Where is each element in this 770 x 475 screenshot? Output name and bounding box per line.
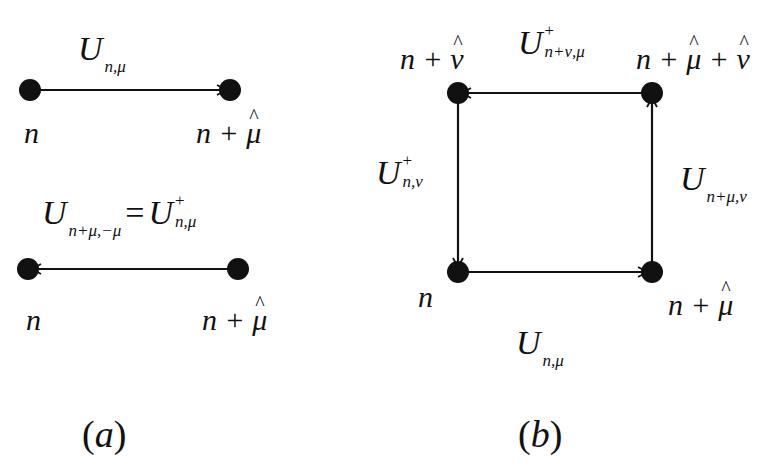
caption-letter: a bbox=[95, 413, 114, 455]
label-a-top-link: Un,μ bbox=[78, 32, 126, 75]
link-subscript: n+ν,μ bbox=[545, 43, 585, 60]
node-hat-nu: ν bbox=[450, 44, 463, 74]
link-symbol: U bbox=[680, 160, 705, 197]
node-base: n + bbox=[636, 42, 686, 75]
link-symbol: U bbox=[376, 154, 401, 191]
label-b-node-top-left: n + ν bbox=[400, 44, 464, 74]
label-b-left-link: U+n,ν bbox=[376, 156, 451, 190]
label-b-right-link: Un+μ,ν bbox=[680, 162, 747, 205]
node-a-bottom-left bbox=[17, 258, 39, 280]
link-symbol: U bbox=[78, 30, 103, 67]
link-symbol-lhs: U bbox=[42, 194, 67, 231]
link-subscript: n,μ bbox=[105, 57, 126, 76]
link-symbol: U bbox=[516, 324, 541, 361]
node-hat-mu: μ bbox=[718, 290, 733, 320]
node-hat-mu: μ bbox=[246, 118, 261, 148]
node-hat-mu: μ bbox=[686, 44, 701, 74]
caption-a: (a) bbox=[82, 412, 126, 456]
node-base: n + bbox=[400, 42, 450, 75]
label-b-node-bottom-left: n bbox=[418, 282, 433, 312]
link-subscript: n,ν bbox=[403, 173, 423, 190]
label-a-node-n-top: n bbox=[24, 118, 39, 148]
node-b-top-left bbox=[447, 82, 469, 104]
caption-b: (b) bbox=[518, 412, 562, 456]
node-hat-nu: ν bbox=[737, 44, 750, 74]
link-symbol-rhs: U bbox=[149, 194, 174, 231]
node-a-bottom-right bbox=[227, 258, 249, 280]
label-a-bottom-link: Un+μ,−μ=U+n,μ bbox=[42, 196, 253, 239]
link-symbol: U bbox=[518, 24, 543, 61]
label-b-node-bottom-right: n + μ bbox=[668, 290, 733, 320]
label-b-node-top-right: n + μ + ν bbox=[636, 44, 750, 74]
paren-close: ) bbox=[114, 413, 127, 455]
link-supsub: +n,ν bbox=[401, 156, 451, 190]
paren-open: ( bbox=[82, 413, 95, 455]
label-a-node-n-plus-mu-bottom: n + μ bbox=[202, 305, 267, 335]
node-b-bottom-left bbox=[447, 261, 469, 283]
node-base: n + bbox=[668, 288, 718, 321]
dagger-sup: + bbox=[175, 192, 185, 209]
dagger-sup: + bbox=[545, 22, 555, 39]
link-subscript: n,μ bbox=[543, 351, 564, 370]
paren-open: ( bbox=[518, 413, 531, 455]
node-b-top-right bbox=[641, 82, 663, 104]
node-base: n + bbox=[196, 116, 246, 149]
equals-sign: = bbox=[125, 194, 144, 231]
label-b-top-link: U+n+ν,μ bbox=[518, 26, 623, 60]
node-b-bottom-right bbox=[641, 261, 663, 283]
paren-close: ) bbox=[550, 413, 563, 455]
link-supsub: +n+ν,μ bbox=[543, 26, 623, 60]
dagger-sup: + bbox=[403, 152, 413, 169]
label-b-bottom-link: Un,μ bbox=[516, 326, 564, 369]
link-subscript-lhs: n+μ,−μ bbox=[69, 221, 122, 240]
node-base: n + bbox=[202, 303, 252, 336]
node-hat-mu: μ bbox=[252, 305, 267, 335]
link-subscript-rhs: n,μ bbox=[175, 213, 196, 230]
node-plus: + bbox=[701, 42, 736, 75]
link-supsub-rhs: +n,μ bbox=[173, 196, 253, 230]
node-a-top-right bbox=[219, 79, 241, 101]
caption-letter: b bbox=[531, 413, 550, 455]
label-a-node-n-plus-mu-top: n + μ bbox=[196, 118, 261, 148]
label-a-node-n-bottom: n bbox=[26, 305, 41, 335]
link-subscript: n+μ,ν bbox=[707, 187, 747, 206]
node-a-top-left bbox=[19, 79, 41, 101]
